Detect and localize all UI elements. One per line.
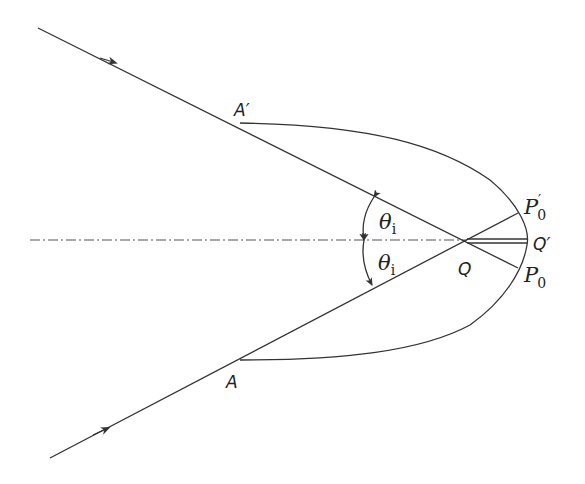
ray-diagram: A′ A θi θi Q Q′ P0′ P0 (0, 0, 585, 484)
label-q-prime: Q′ (533, 234, 550, 254)
label-p0: P0 (523, 263, 546, 291)
label-theta-lower: θi (378, 251, 396, 278)
wavefront-curve (240, 123, 528, 360)
angle-arc-upper (363, 197, 374, 240)
upper-incident-ray (38, 28, 518, 268)
label-q: Q (458, 259, 471, 279)
angle-arc-lower (363, 240, 372, 285)
label-p0-prime: P0′ (523, 192, 546, 223)
label-theta-upper: θi (379, 210, 397, 237)
label-a: A (225, 372, 238, 392)
label-a-prime: A′ (233, 100, 250, 120)
lower-ray-arrow-icon (93, 429, 106, 435)
